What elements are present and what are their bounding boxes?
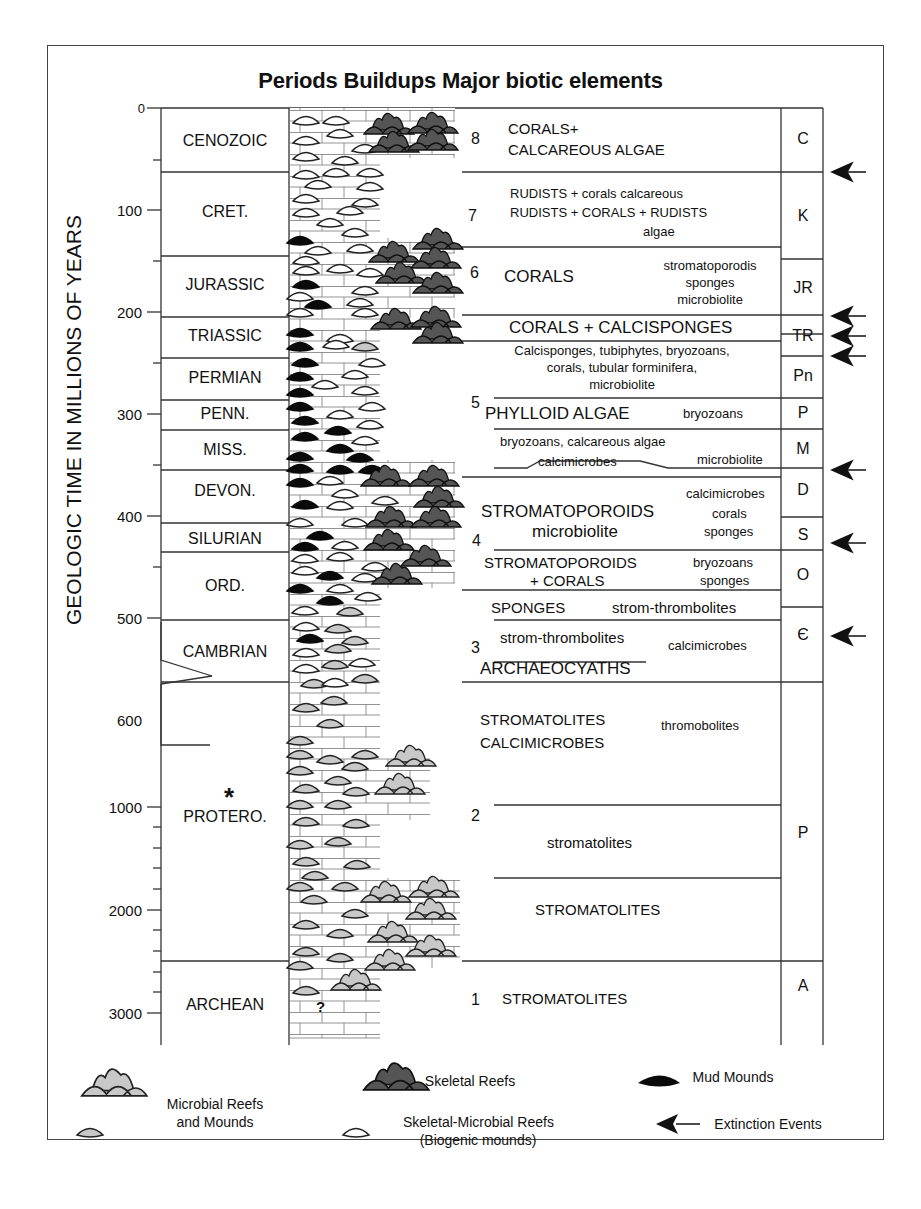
legend-skeletal-label: Skeletal Reefs bbox=[415, 1073, 525, 1089]
abbr-k: K bbox=[782, 207, 824, 225]
biotic-7-line3: algae bbox=[643, 224, 675, 239]
legend-microbial-label2: and Mounds bbox=[160, 1114, 270, 1130]
biotic-devon-side1: calcimicrobes bbox=[686, 486, 765, 501]
extinction-arrows bbox=[832, 163, 866, 645]
biotic-ord-line2: + CORALS bbox=[530, 572, 605, 589]
biotic-archean-main: STROMATOLITES bbox=[502, 990, 627, 1007]
biotic-miss-line2: calcimicrobes bbox=[538, 454, 617, 469]
biotic-8-line2: CALCAREOUS ALGAE bbox=[508, 141, 665, 158]
abbr-p-protero: P bbox=[782, 824, 824, 842]
extinction-arrow-tr-jr bbox=[832, 307, 866, 325]
biotic-ord2-main: SPONGES bbox=[491, 599, 565, 616]
biotic-6-side2: sponges bbox=[650, 275, 770, 290]
period-ordovician: ORD. bbox=[162, 577, 288, 595]
period-jurassic: JURASSIC bbox=[162, 276, 288, 294]
tick-2000: 2000 bbox=[82, 902, 142, 919]
unknown-marker: ? bbox=[316, 998, 325, 1015]
abbr-pn: Pn bbox=[782, 367, 824, 385]
extinction-arrow-pt bbox=[832, 347, 866, 365]
biotic-triassic-main: CORALS + CALCISPONGES bbox=[509, 318, 732, 338]
buildup-column bbox=[287, 108, 464, 1038]
biotic-ord-side1: bryozoans bbox=[693, 555, 753, 570]
biotic-6-side3: microbiolite bbox=[650, 292, 770, 307]
tick-400: 400 bbox=[82, 508, 142, 525]
legend-skeletal-microbial-label2: (Biogenic mounds) bbox=[403, 1132, 553, 1148]
biotic-cambrian-line2: ARCHAEOCYATHS bbox=[480, 659, 631, 679]
biotic-devon-side2: corals bbox=[712, 506, 747, 521]
period-silurian: SILURIAN bbox=[162, 530, 288, 548]
biotic-devon-sub: microbiolite bbox=[532, 522, 618, 542]
biotic-miss-side: microbiolite bbox=[697, 452, 763, 467]
buildup-7-number: 7 bbox=[468, 207, 477, 225]
buildup-4-number: 4 bbox=[472, 532, 481, 550]
abbr-cambrian: Є bbox=[782, 626, 824, 644]
buildup-1-number: 1 bbox=[471, 991, 480, 1009]
legend-extinction-label: Extinction Events bbox=[713, 1116, 823, 1132]
abbr-p-penn: P bbox=[782, 404, 824, 422]
biotic-permian-line3: microbiolite bbox=[462, 377, 782, 392]
biotic-permian-line1: Calcisponges, tubiphytes, bryozoans, bbox=[462, 343, 782, 358]
tick-1000: 1000 bbox=[82, 799, 142, 816]
biotic-7-line2: RUDISTS + CORALS + RUDISTS bbox=[510, 205, 707, 220]
biotic-ord-side2: sponges bbox=[700, 573, 749, 588]
biotic-6-main: CORALS bbox=[504, 267, 574, 287]
period-cambrian: CAMBRIAN bbox=[162, 643, 288, 661]
biotic-miss-line1: bryozoans, calcareous algae bbox=[500, 434, 666, 449]
legend-mud-mounds-label: Mud Mounds bbox=[688, 1069, 778, 1085]
abbr-s: S bbox=[782, 526, 824, 544]
period-pennsylvanian: PENN. bbox=[162, 405, 288, 423]
biotic-protero-line2: CALCIMICROBES bbox=[480, 734, 604, 751]
abbr-m: M bbox=[782, 440, 824, 458]
abbr-tr: TR bbox=[782, 327, 824, 345]
extinction-arrow-os bbox=[832, 534, 866, 552]
period-archean: ARCHEAN bbox=[162, 996, 288, 1014]
abbr-d: D bbox=[782, 481, 824, 499]
buildup-3-number: 3 bbox=[471, 639, 480, 657]
buildup-6-number: 6 bbox=[470, 264, 479, 282]
buildup-2-number: 2 bbox=[471, 807, 480, 825]
diagram-graphics bbox=[0, 0, 921, 1209]
legend-skeletal-microbial-label: Skeletal-Microbial Reefs bbox=[403, 1114, 553, 1130]
biotic-devon-main: STROMATOPOROIDS bbox=[481, 502, 654, 522]
tick-100: 100 bbox=[82, 202, 142, 219]
biotic-protero-line1: STROMATOLITES bbox=[480, 711, 605, 728]
biotic-protero-low: STROMATOLITES bbox=[535, 901, 660, 918]
biotic-ord2-side: strom-thrombolites bbox=[612, 599, 736, 616]
period-devonian: DEVON. bbox=[162, 482, 288, 500]
abbr-c: C bbox=[782, 130, 824, 148]
extinction-arrow-tr bbox=[832, 327, 866, 345]
buildup-8-number: 8 bbox=[471, 130, 480, 148]
period-permian: PERMIAN bbox=[162, 369, 288, 387]
abbr-jr: JR bbox=[782, 279, 824, 297]
period-proterozoic: PROTERO. bbox=[162, 808, 288, 826]
tick-500: 500 bbox=[82, 610, 142, 627]
biotic-ord-line1: STROMATOPOROIDS bbox=[484, 554, 637, 571]
extinction-arrow-kt bbox=[832, 163, 866, 181]
tick-300: 300 bbox=[82, 406, 142, 423]
biotic-cambrian-line1: strom-thrombolites bbox=[500, 629, 624, 646]
biotic-6-side1: stromatoporodis bbox=[650, 258, 770, 273]
period-cenozoic: CENOZOIC bbox=[162, 132, 288, 150]
period-cretaceous: CRET. bbox=[162, 203, 288, 221]
tick-0: 0 bbox=[85, 101, 145, 116]
tick-200: 200 bbox=[82, 304, 142, 321]
biotic-permian-line2: corals, tubular forminifera, bbox=[462, 360, 782, 375]
biotic-5-main: PHYLLOID ALGAE bbox=[485, 404, 630, 424]
period-triassic: TRIASSIC bbox=[162, 327, 288, 345]
abbr-o: O bbox=[782, 566, 824, 584]
tick-600: 600 bbox=[82, 712, 142, 729]
abbr-a: A bbox=[782, 977, 824, 995]
biotic-protero-mid: stromatolites bbox=[547, 834, 632, 851]
legend-microbial-label: Microbial Reefs bbox=[160, 1096, 270, 1112]
biotic-cambrian-side: calcimicrobes bbox=[668, 638, 747, 653]
tick-3000: 3000 bbox=[82, 1005, 142, 1022]
biotic-7-line1: RUDISTS + corals calcareous bbox=[510, 186, 683, 201]
buildup-5-number: 5 bbox=[471, 394, 480, 412]
extinction-arrow-cambrian bbox=[832, 627, 866, 645]
biotic-devon-side3: sponges bbox=[704, 524, 753, 539]
biotic-8-line1: CORALS+ bbox=[508, 120, 578, 137]
extinction-arrow-fd bbox=[832, 461, 866, 479]
period-mississippian: MISS. bbox=[162, 441, 288, 459]
biotic-5-side: bryozoans bbox=[683, 406, 743, 421]
biotic-protero-side: thromobolites bbox=[661, 718, 739, 733]
